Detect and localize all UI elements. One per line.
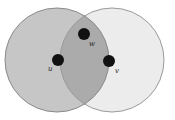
node-v-dot — [103, 55, 115, 67]
node-v-label: v — [115, 67, 119, 75]
venn-diagram: u w v — [0, 0, 175, 120]
node-w-label: w — [89, 40, 95, 48]
node-w-dot — [78, 28, 90, 40]
node-u-label: u — [48, 65, 53, 73]
node-u-dot — [52, 54, 64, 66]
